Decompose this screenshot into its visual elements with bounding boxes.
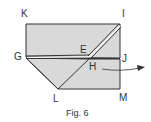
label-h: H bbox=[89, 61, 96, 72]
fold-gap-ge bbox=[27, 57, 90, 58]
lower-flap bbox=[26, 58, 120, 89]
label-l: L bbox=[53, 93, 59, 104]
label-k: K bbox=[21, 8, 28, 19]
arrowhead-icon bbox=[137, 65, 145, 71]
folded-paper-diagram: K I G E J H L M Fig. 6 bbox=[0, 0, 151, 122]
label-e: E bbox=[80, 44, 87, 55]
label-j: J bbox=[122, 53, 127, 64]
figure-caption: Fig. 6 bbox=[66, 108, 89, 118]
label-g: G bbox=[14, 51, 22, 62]
label-m: M bbox=[119, 92, 127, 103]
label-i: I bbox=[122, 8, 125, 19]
